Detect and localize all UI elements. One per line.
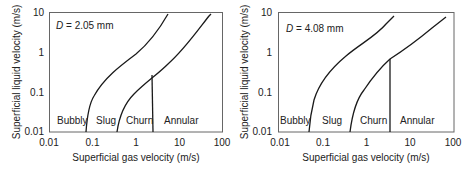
x-tick-0-1: 0.1: [316, 137, 330, 148]
x-axis-label: Superficial gas velocity (m/s): [72, 152, 199, 163]
y-tick-10: 10: [33, 7, 45, 18]
y-tick-0-01: 0.01: [253, 126, 273, 137]
y-axis-label: Superficial liquid velocity (m/s): [239, 5, 250, 140]
region-churn: Churn: [360, 115, 387, 126]
region-bubbly: Bubbly: [280, 115, 311, 126]
x-axis-label: Superficial gas velocity (m/s): [302, 152, 429, 163]
y-tick-1: 1: [38, 47, 44, 58]
x-tick-100: 100: [214, 137, 231, 148]
region-churn: Churn: [126, 115, 153, 126]
x-tick-10: 10: [404, 137, 416, 148]
x-tick-0-01: 0.01: [270, 137, 290, 148]
y-tick-0-1: 0.1: [258, 87, 272, 98]
x-tick-0-01: 0.01: [39, 137, 59, 148]
region-slug: Slug: [322, 115, 342, 126]
chart-right-d-4-08mm: 10 1 0.1 0.01 0.01 0.1 1 10 100 Superfic…: [239, 5, 462, 163]
diameter-value: = 2.05 mm: [63, 20, 113, 31]
region-annular: Annular: [164, 115, 199, 126]
diameter-value: = 4.08 mm: [293, 23, 343, 34]
diameter-symbol: D: [56, 20, 63, 31]
x-tick-1: 1: [364, 137, 370, 148]
x-tick-1: 1: [133, 137, 139, 148]
y-axis-label: Superficial liquid velocity (m/s): [11, 5, 22, 140]
region-slug: Slug: [96, 115, 116, 126]
x-tick-100: 100: [445, 137, 462, 148]
y-tick-0-01: 0.01: [25, 126, 45, 137]
y-tick-1: 1: [266, 47, 272, 58]
flow-regime-figure: 10 1 0.1 0.01 0.01 0.1 1 10 100 Superfic…: [0, 0, 470, 171]
diameter-annotation: D = 4.08 mm: [286, 23, 344, 34]
chart-left-d-2-05mm: 10 1 0.1 0.01 0.01 0.1 1 10 100 Superfic…: [11, 5, 231, 163]
diameter-annotation: D = 2.05 mm: [56, 20, 114, 31]
region-annular: Annular: [400, 115, 435, 126]
x-tick-0-1: 0.1: [86, 137, 100, 148]
diameter-symbol: D: [286, 23, 293, 34]
region-bubbly: Bubbly: [57, 115, 88, 126]
y-tick-10: 10: [261, 7, 273, 18]
y-tick-0-1: 0.1: [30, 87, 44, 98]
x-tick-10: 10: [174, 137, 186, 148]
